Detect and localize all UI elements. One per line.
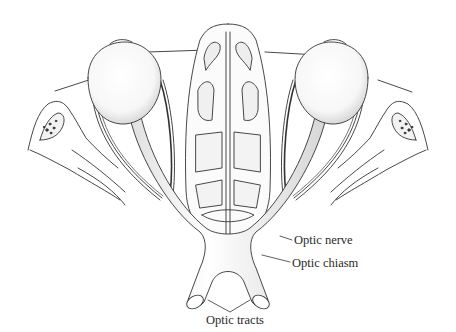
- anatomical-drawing: [0, 0, 456, 332]
- label-optic-nerve: Optic nerve: [294, 233, 353, 247]
- optic-pathway-diagram: Optic nerve Optic chiasm Optic tracts: [0, 0, 456, 332]
- central-bone: [186, 24, 271, 246]
- left-eyeball: [88, 40, 161, 125]
- right-eyeball: [295, 40, 368, 125]
- label-optic-tracts: Optic tracts: [206, 313, 264, 327]
- label-optic-chiasm: Optic chiasm: [292, 256, 358, 270]
